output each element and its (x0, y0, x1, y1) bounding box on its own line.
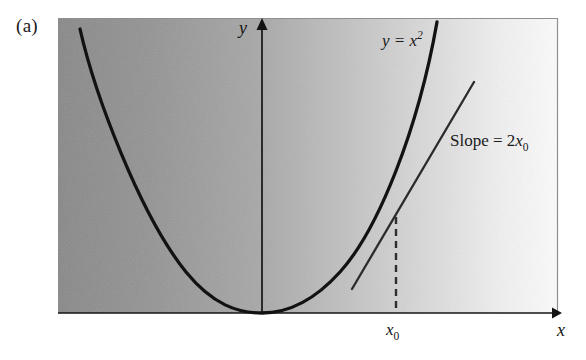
curve-equation-exponent: 2 (417, 29, 423, 41)
figure-panel-a: (a) (0, 0, 586, 360)
curve-equation-label: y = x2 (380, 29, 423, 50)
x-axis-label: x (556, 320, 565, 340)
slope-annotation-subscript: 0 (523, 141, 529, 153)
slope-annotation-prefix: Slope = 2 (450, 131, 515, 150)
x0-tick-label: x0 (385, 320, 400, 342)
y-axis-label: y (237, 18, 247, 38)
curve-equation-main: y = x (380, 31, 418, 50)
slope-annotation-label: Slope = 2x0 (450, 131, 529, 153)
x0-tick-subscript: 0 (394, 330, 400, 342)
gradient-background-texture (58, 18, 558, 313)
parabola-plot: y x x0 y = x2 Slope = 2x0 (0, 0, 586, 360)
